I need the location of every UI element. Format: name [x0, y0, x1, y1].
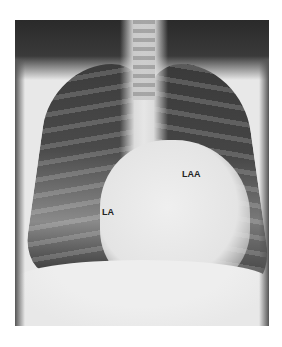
cervical-spine	[133, 20, 155, 100]
label-left-atrium: LA	[102, 207, 114, 217]
left-edge-shadow	[15, 60, 25, 326]
right-edge-shadow	[259, 60, 269, 326]
label-left-atrial-appendage: LAA	[182, 169, 201, 179]
chest-xray-image	[15, 20, 269, 326]
diaphragm	[15, 260, 269, 326]
